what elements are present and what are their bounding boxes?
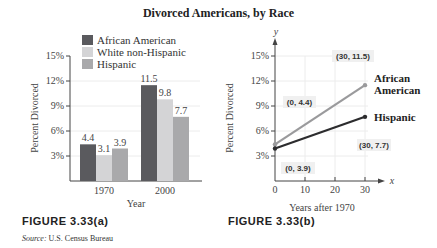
bar-category-label: 2000 <box>155 185 175 196</box>
svg-text:6%: 6% <box>256 125 269 136</box>
charts-canvas: 15% 12% 9% 6% 3% Percent Divorced Year 4… <box>0 0 437 248</box>
line-chart: y x 15% 12% 9% 6% 3% 0 10 20 30 <box>224 26 420 213</box>
svg-text:30: 30 <box>360 184 370 195</box>
legend-label: African American <box>97 34 177 46</box>
svg-text:12%: 12% <box>46 75 64 86</box>
bar-value-label: 11.5 <box>140 73 157 84</box>
bar-value-label: 7.7 <box>175 105 188 116</box>
legend-swatch <box>82 47 93 57</box>
y-axis-arrow-icon <box>273 38 278 45</box>
data-point <box>363 83 367 87</box>
bar <box>112 149 128 182</box>
bar-value-label: 4.4 <box>82 132 95 143</box>
line-y-tick-labels: 15% 12% 9% 6% 3% <box>251 50 269 161</box>
bar <box>157 99 173 181</box>
bar-category-label: 1970 <box>94 185 114 196</box>
x-axis-symbol: x <box>389 175 395 186</box>
x-axis-arrow-icon <box>378 179 385 184</box>
svg-text:African: African <box>374 72 410 84</box>
y-axis-symbol: y <box>273 26 279 37</box>
bar-y-axis-label: Percent Divorced <box>29 83 40 153</box>
line-y-axis-label: Percent Divorced <box>224 83 235 153</box>
data-point <box>273 146 277 150</box>
source-text: U.S. Census Bureau <box>47 234 113 243</box>
bar-x-axis-label: Year <box>127 198 146 209</box>
bar-value-label: 3.9 <box>114 137 127 148</box>
svg-text:(30, 11.5): (30, 11.5) <box>336 52 370 61</box>
figure-b-label: FIGURE 3.33(b) <box>228 215 315 227</box>
svg-text:15%: 15% <box>251 50 269 61</box>
svg-text:15%: 15% <box>46 50 64 61</box>
svg-text:20: 20 <box>330 184 340 195</box>
svg-text:Hispanic: Hispanic <box>374 111 416 123</box>
svg-text:(0, 4.4): (0, 4.4) <box>287 98 313 107</box>
source-label: Source: <box>22 234 47 243</box>
line-series <box>275 117 365 149</box>
line-series <box>275 85 365 144</box>
bars: 4.43.13.9197011.59.87.72000 <box>80 73 189 196</box>
legend-swatch <box>82 59 93 69</box>
data-point <box>363 115 367 119</box>
bar <box>141 85 157 181</box>
figure-a-label: FIGURE 3.33(a) <box>22 215 108 227</box>
svg-text:0: 0 <box>273 184 278 195</box>
svg-text:3%: 3% <box>256 150 269 161</box>
bar <box>80 144 96 181</box>
bar <box>173 117 189 181</box>
source-note: Source: U.S. Census Bureau <box>22 234 113 243</box>
svg-text:9%: 9% <box>51 100 64 111</box>
line-x-axis-label: Years after 1970 <box>289 202 355 213</box>
svg-text:6%: 6% <box>51 125 64 136</box>
svg-text:(30, 7.7): (30, 7.7) <box>359 141 389 150</box>
svg-text:9%: 9% <box>256 100 269 111</box>
bar-y-tick-labels: 15% 12% 9% 6% 3% <box>46 50 64 161</box>
lines <box>273 83 367 151</box>
bar-legend: African AmericanWhite non-HispanicHispan… <box>82 34 186 70</box>
data-point <box>273 142 277 146</box>
legend-label: White non-Hispanic <box>97 46 186 58</box>
svg-text:10: 10 <box>300 184 310 195</box>
svg-text:3%: 3% <box>51 150 64 161</box>
svg-text:12%: 12% <box>251 75 269 86</box>
svg-text:(0, 3.9): (0, 3.9) <box>285 164 311 173</box>
bar <box>96 155 112 181</box>
line-series-labels: African American Hispanic <box>374 72 420 123</box>
legend-label: Hispanic <box>97 58 136 70</box>
svg-text:American: American <box>374 84 420 96</box>
bar-chart: 15% 12% 9% 6% 3% Percent Divorced Year 4… <box>29 34 202 209</box>
bar-value-label: 3.1 <box>98 143 111 154</box>
bar-value-label: 9.8 <box>159 87 172 98</box>
legend-swatch <box>82 35 93 45</box>
line-x-tick-labels: 0 10 20 30 <box>273 184 371 195</box>
